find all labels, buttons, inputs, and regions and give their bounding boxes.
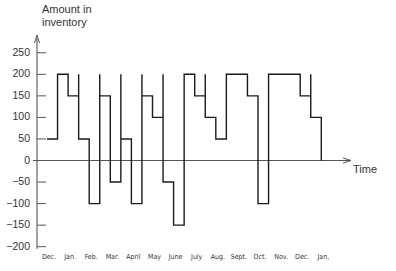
x-tick-label: Mar. xyxy=(106,253,119,261)
y-tick-label: 200 xyxy=(2,67,30,79)
x-tick-label: Sept. xyxy=(231,253,247,261)
y-tick-label: 250 xyxy=(2,46,30,58)
step-chart xyxy=(0,0,396,271)
x-tick-label: June xyxy=(169,253,183,261)
x-tick-label: Nov. xyxy=(274,253,288,261)
x-axis-label: Time xyxy=(353,163,377,175)
y-tick-label: −150 xyxy=(2,218,30,230)
x-tick-label: Jan, xyxy=(317,253,329,261)
x-tick-label: April xyxy=(126,253,140,261)
x-tick-label: Feb. xyxy=(85,253,98,261)
inventory-step-line xyxy=(47,74,321,225)
y-tick-label: −200 xyxy=(2,240,30,252)
y-tick-label: 0 xyxy=(2,154,30,166)
x-tick-label: Dec. xyxy=(295,253,309,261)
inventory-series xyxy=(47,74,321,225)
y-axis-label: Amount in inventory xyxy=(42,3,112,29)
axes xyxy=(33,35,351,249)
x-tick-label: Dec. xyxy=(42,253,56,261)
x-tick-label: Aug. xyxy=(211,253,225,261)
y-tick-label: 50 xyxy=(2,132,30,144)
y-tick-marks xyxy=(37,53,46,247)
x-tick-label: Oct. xyxy=(254,253,267,261)
y-tick-label: −50 xyxy=(2,175,30,187)
y-axis-label-line-1: Amount in xyxy=(42,3,112,16)
y-axis-label-line-2: inventory xyxy=(42,16,112,29)
x-tick-label: Jan. xyxy=(64,253,76,261)
x-tick-label: July xyxy=(191,253,202,261)
y-tick-label: 150 xyxy=(2,89,30,101)
y-tick-label: 100 xyxy=(2,110,30,122)
y-tick-label: −100 xyxy=(2,197,30,209)
x-tick-label: May xyxy=(148,253,161,261)
